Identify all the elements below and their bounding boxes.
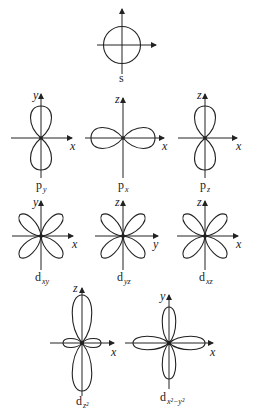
axis-label-horizontal: x: [110, 345, 117, 359]
label-py: p: [36, 178, 42, 192]
label-dxz: d: [199, 270, 205, 284]
label-dxy-subscript: xy: [41, 277, 50, 286]
label-dx2-y2-subscript: x²−y²: [166, 397, 185, 406]
label-dyz-subscript: yz: [123, 277, 132, 286]
axis-label-horizontal: y: [152, 237, 159, 251]
label-dz2-subscript: z²: [82, 401, 89, 410]
axis-label-vertical: z: [72, 281, 78, 295]
axis-label-horizontal: x: [235, 139, 242, 153]
axis-label-horizontal: x: [71, 237, 78, 251]
axis-label-horizontal: x: [209, 345, 216, 359]
orbital-pz: z x p z: [178, 88, 242, 194]
orbital-px: z x p x: [85, 92, 168, 194]
label-dx2-y2: d: [160, 390, 166, 404]
label-dz2: d: [76, 394, 82, 408]
orbital-dyz: z y d yz: [95, 195, 159, 286]
axis-label-vertical: z: [196, 88, 202, 102]
axis-label-vertical: y: [32, 195, 39, 209]
orbital-diagram: s y x p y z x p x z x p z: [0, 0, 253, 419]
orbital-dx2-y2: y x d x²−y²: [125, 289, 216, 406]
axis-label-horizontal: x: [69, 139, 76, 153]
label-px-subscript: x: [124, 185, 129, 194]
label-dxz-subscript: xz: [205, 277, 214, 286]
label-py-subscript: y: [42, 185, 47, 194]
label-pz-subscript: z: [206, 185, 211, 194]
axis-label-vertical: z: [196, 195, 202, 209]
label-pz: p: [200, 178, 206, 192]
axis-label-horizontal: x: [235, 237, 242, 251]
orbital-dz2: z x d z²: [50, 281, 117, 410]
orbital-dxy: y x d xy: [12, 195, 78, 286]
orbital-dxz: z x d xz: [177, 195, 242, 286]
axis-label-horizontal: x: [161, 139, 168, 153]
orbital-s: s: [97, 9, 156, 85]
axis-label-vertical: z: [114, 92, 120, 106]
label-dxy: d: [35, 270, 41, 284]
axis-label-vertical: y: [159, 289, 166, 303]
label-dyz: d: [117, 270, 123, 284]
label-s: s: [119, 71, 124, 85]
axis-label-vertical: z: [114, 195, 120, 209]
axis-label-vertical: y: [32, 88, 39, 102]
orbital-py: y x p y: [11, 88, 76, 194]
label-px: p: [118, 178, 124, 192]
